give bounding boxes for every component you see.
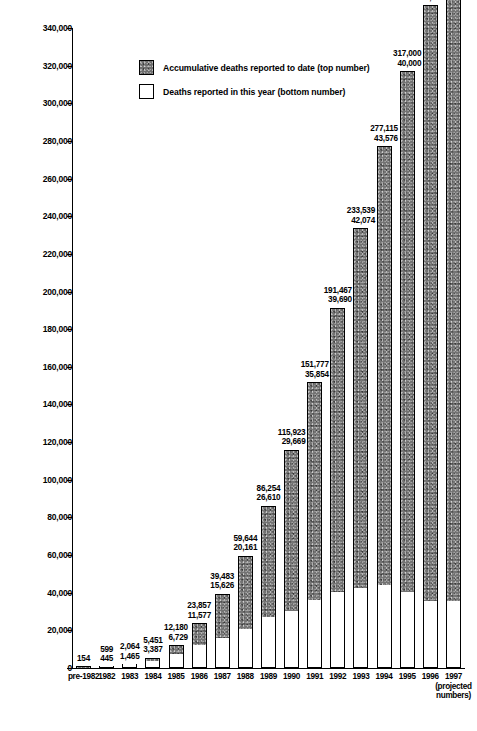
y-tick-label: 280,000 <box>10 136 72 146</box>
bar-group[interactable]: 39,48315,626 <box>215 594 230 668</box>
stacked-bar[interactable] <box>192 623 207 668</box>
bar-segment-annual <box>308 600 321 667</box>
y-axis-line <box>72 28 73 668</box>
stacked-bar[interactable] <box>400 71 415 668</box>
y-tick-label: 300,000 <box>10 98 72 108</box>
stacked-bar[interactable] <box>284 450 299 668</box>
bar-segment-annual <box>331 592 344 667</box>
legend-item: Deaths reported in this year (bottom num… <box>139 84 370 99</box>
bar-group[interactable]: 5,4513,387 <box>145 658 160 668</box>
bar-label-cumulative: 2,064 <box>120 642 140 652</box>
bar-label-cumulative: 59,644 <box>233 534 257 544</box>
bar-label-cumulative: 154 <box>77 654 90 664</box>
bar-group[interactable]: 23,85711,577 <box>192 623 207 668</box>
bar-label-cumulative: 277,115 <box>370 124 398 134</box>
bar-value-labels: 5,4513,387 <box>143 636 163 655</box>
x-label-text: 1997 <box>445 672 462 681</box>
bar-value-labels: 59,64420,161 <box>233 534 257 553</box>
bar-group[interactable]: 115,92329,669 <box>284 450 299 668</box>
bar-label-annual: 11,577 <box>187 611 211 621</box>
bar-label-cumulative: 86,254 <box>257 484 281 494</box>
bar-group[interactable]: 277,11543,576 <box>377 146 392 668</box>
stacked-bar[interactable] <box>122 664 137 668</box>
bar-label-cumulative: 39,483 <box>210 572 234 582</box>
legend-label: Deaths reported in this year (bottom num… <box>163 87 345 97</box>
bar-label-annual: 29,669 <box>278 437 306 447</box>
bar-label-cumulative: 599 <box>100 645 113 655</box>
bar-value-labels: 277,11543,576 <box>370 124 398 143</box>
bar-group[interactable]: 599445 <box>99 667 114 669</box>
stacked-bar[interactable] <box>330 308 345 668</box>
bar-value-labels: 191,46739,690 <box>324 286 352 305</box>
bar-value-labels: 317,00040,000 <box>393 49 421 68</box>
bar-group[interactable]: 2,0641,465 <box>122 664 137 668</box>
bar-group[interactable]: 151,77735,854 <box>307 382 322 668</box>
stacked-bar[interactable] <box>215 594 230 668</box>
bar-label-cumulative: 151,777 <box>301 360 329 370</box>
bar-value-labels: 352,00035,000 <box>416 0 444 2</box>
bar-value-labels: 23,85711,577 <box>187 601 211 620</box>
bar-segment-cumulative <box>285 451 298 613</box>
bar-segment-annual <box>100 666 113 667</box>
bar-segment-annual <box>378 585 391 667</box>
stacked-bar[interactable] <box>446 0 461 668</box>
bar-label-annual: 42,074 <box>347 216 375 226</box>
bar-segment-annual <box>193 645 206 667</box>
bar-group[interactable]: 191,46739,690 <box>330 308 345 668</box>
bar-label-cumulative: 5,451 <box>143 636 163 646</box>
bar-segment-annual <box>123 664 136 667</box>
bar-value-labels: 154 <box>77 654 90 664</box>
bar-group[interactable]: 352,00035,000 <box>423 5 438 668</box>
bar-group[interactable]: 59,64420,161 <box>238 556 253 668</box>
y-tick-label: 200,000 <box>10 287 72 297</box>
bar-segment-annual <box>239 629 252 667</box>
bar-label-annual: 35,854 <box>301 370 329 380</box>
bar-value-labels: 233,53942,074 <box>347 206 375 225</box>
stacked-bar[interactable] <box>307 382 322 668</box>
stacked-bar[interactable] <box>99 666 114 668</box>
bar-label-annual: 39,690 <box>324 295 352 305</box>
bar-segment-annual <box>262 617 275 667</box>
y-tick-label: 60,000 <box>10 550 72 560</box>
bar-label-annual: 6,729 <box>164 633 188 643</box>
stacked-bar[interactable] <box>169 645 184 668</box>
bar-segment-cumulative <box>354 229 367 589</box>
stacked-bar[interactable] <box>377 146 392 668</box>
bar-label-cumulative: 191,467 <box>324 286 352 296</box>
bar-label-annual: 3,387 <box>143 645 163 655</box>
bar-segment-annual <box>170 654 183 667</box>
bar-segment-cumulative <box>216 595 229 640</box>
bar-value-labels: 599445 <box>100 645 113 664</box>
y-tick-label: 120,000 <box>10 437 72 447</box>
x-label-sublabel: (projected <box>427 682 477 692</box>
bar-segment-annual <box>401 592 414 667</box>
bar-label-cumulative: 12,180 <box>164 623 188 633</box>
bar-group[interactable]: 233,53942,074 <box>353 228 368 668</box>
bar-group[interactable]: 86,25426,610 <box>261 506 276 668</box>
bar-segment-cumulative <box>100 667 113 668</box>
bar-label-cumulative: 233,539 <box>347 206 375 216</box>
bar-segment-cumulative <box>424 6 437 603</box>
y-tick-label: 220,000 <box>10 249 72 259</box>
bar-label-annual: 43,576 <box>370 134 398 144</box>
bar-group[interactable]: 154 <box>76 667 91 669</box>
bar-value-labels: 115,92329,669 <box>278 428 306 447</box>
bar-group[interactable]: 12,1806,729 <box>169 645 184 668</box>
stacked-bar[interactable] <box>353 228 368 668</box>
bar-value-labels: 86,25426,610 <box>257 484 281 503</box>
stacked-bar[interactable] <box>261 506 276 668</box>
stacked-bar[interactable] <box>76 666 91 668</box>
y-tick-label: 340,000 <box>10 23 72 33</box>
legend-item: Accumulative deaths reported to date (to… <box>139 60 370 75</box>
bar-value-labels: 12,1806,729 <box>164 623 188 642</box>
bar-label-annual: 40,000 <box>393 59 421 69</box>
bar-label-cumulative: 23,857 <box>187 601 211 611</box>
bar-group[interactable]: 317,00040,000 <box>400 71 415 668</box>
stacked-bar[interactable] <box>145 658 160 668</box>
stacked-bar[interactable] <box>238 556 253 668</box>
legend-swatch-annual <box>139 84 154 99</box>
bar-segment-cumulative <box>401 72 414 593</box>
x-axis-line <box>72 668 465 669</box>
stacked-bar[interactable] <box>423 5 438 668</box>
bar-group[interactable]: 387,00035,000 <box>446 0 461 668</box>
